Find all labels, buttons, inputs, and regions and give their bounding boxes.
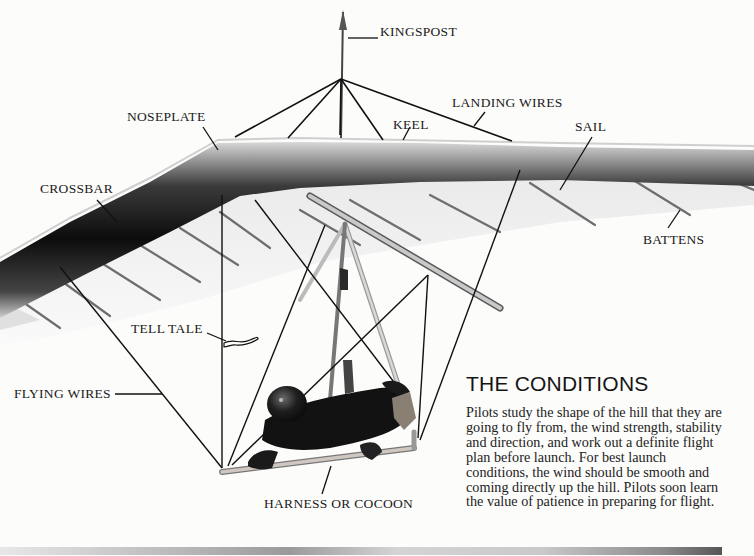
label-noseplate: NOSEPLATE — [127, 110, 205, 124]
section-body: Pilots study the shape of the hill that … — [466, 405, 728, 509]
label-harness: HARNESS OR COCOON — [264, 497, 413, 511]
page-edge-strip — [0, 547, 722, 555]
section-heading: THE CONDITIONS — [466, 372, 648, 396]
label-battens: BATTENS — [643, 233, 704, 247]
book-page: KINGSPOST LANDING WIRES NOSEPLATE KEEL S… — [0, 0, 754, 556]
label-kingspost: KINGSPOST — [380, 25, 457, 39]
label-crossbar: CROSSBAR — [40, 182, 113, 196]
label-keel: KEEL — [393, 118, 429, 132]
label-landing-wires: LANDING WIRES — [452, 96, 563, 110]
label-tell-tale: TELL TALE — [131, 322, 203, 336]
landing-wires — [235, 79, 512, 141]
label-flying-wires: FLYING WIRES — [14, 387, 111, 401]
label-sail: SAIL — [575, 120, 606, 134]
tell-tale — [224, 337, 258, 347]
